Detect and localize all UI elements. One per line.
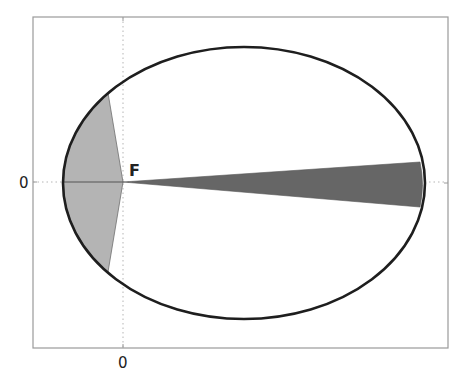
focus-label: F xyxy=(129,161,140,180)
y-tick-label: 0 xyxy=(19,174,29,192)
x-tick-label: 0 xyxy=(118,354,128,372)
aphelion-sector xyxy=(123,162,422,207)
kepler-orbit-diagram: F 0 0 xyxy=(0,0,466,385)
